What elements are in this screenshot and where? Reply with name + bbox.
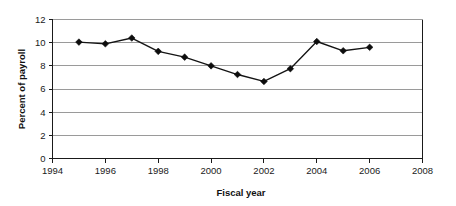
y-tick-label-10: 10 <box>35 37 46 48</box>
x-tick-label-1996: 1996 <box>95 165 116 176</box>
y-tick-label-2: 2 <box>40 130 45 141</box>
y-tick-label-12: 12 <box>35 14 46 25</box>
chart-background <box>0 0 456 206</box>
x-tick-label-2004: 2004 <box>306 165 327 176</box>
x-tick-label-2000: 2000 <box>201 165 222 176</box>
x-tick-label-1998: 1998 <box>148 165 169 176</box>
line-chart: 024681012 199419961998200020022004200620… <box>0 0 456 206</box>
chart-container: 024681012 199419961998200020022004200620… <box>0 0 456 206</box>
y-tick-label-6: 6 <box>40 83 45 94</box>
x-tick-label-2006: 2006 <box>359 165 380 176</box>
y-tick-label-0: 0 <box>40 153 45 164</box>
y-tick-label-8: 8 <box>40 60 45 71</box>
x-tick-label-1994: 1994 <box>42 165 63 176</box>
y-axis-title: Percent of payroll <box>16 49 27 129</box>
x-axis-title: Fiscal year <box>216 187 265 198</box>
y-tick-label-4: 4 <box>40 107 45 118</box>
x-tick-label-2002: 2002 <box>253 165 274 176</box>
x-tick-label-2008: 2008 <box>412 165 433 176</box>
